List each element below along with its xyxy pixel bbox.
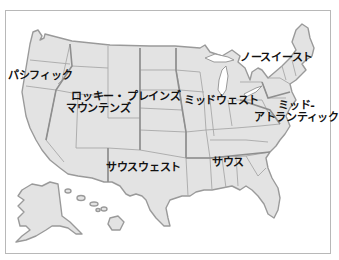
region-label-rocky-mountains-line2: マウンテンズ [66, 103, 130, 115]
hawaii [65, 189, 124, 230]
region-label-plains: プレインズ [127, 91, 181, 103]
region-label-rocky-mountains: ロッキー・ マウンテンズ [66, 91, 130, 115]
region-label-midwest: ミッドウェスト [184, 95, 259, 107]
region-label-pacific: パシフィック [8, 70, 72, 82]
region-label-mid-atlantic: ミッド- アトランティック [254, 100, 339, 124]
region-label-south: サウス [212, 157, 244, 169]
region-label-northeast: ノースイースト [240, 52, 313, 64]
alaska [16, 182, 82, 242]
region-label-mid-atlantic-line2: アトランティック [254, 112, 339, 124]
region-label-southwest: サウスウェスト [106, 162, 181, 174]
